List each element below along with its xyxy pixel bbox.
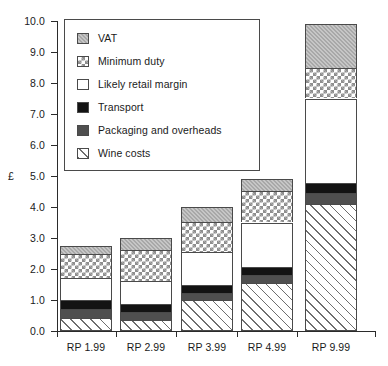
x-tick <box>176 331 177 337</box>
y-tick <box>51 21 57 22</box>
bar-segment-transport <box>241 267 293 275</box>
x-tick <box>57 331 58 337</box>
y-tick-label: 0.0 <box>30 326 45 336</box>
bar-segment-wine-costs <box>241 283 293 331</box>
y-tick <box>51 114 57 115</box>
bar-segment-wine-costs <box>181 300 233 331</box>
legend-item: Minimum duty <box>77 50 259 73</box>
legend-item: Wine costs <box>77 142 259 165</box>
bar-segment-transport <box>181 285 233 293</box>
y-tick-label: 2.0 <box>30 264 45 274</box>
bar-segment-wine-costs <box>60 318 112 331</box>
y-tick <box>51 83 57 84</box>
bar-segment-transport <box>305 183 357 193</box>
legend-item: Packaging and overheads <box>77 119 259 142</box>
y-axis-line <box>57 21 58 332</box>
legend-label: Wine costs <box>98 148 150 159</box>
legend-swatch <box>77 79 89 90</box>
bar-segment-likely-retail-margin <box>181 252 233 285</box>
legend-swatch <box>77 33 89 44</box>
bar-rp-1-99 <box>60 269 112 331</box>
bar-rp-4-99 <box>241 179 293 331</box>
bar-segment-transport <box>60 300 112 309</box>
y-axis-title: £ <box>8 171 14 181</box>
bar-segment-vat <box>120 238 172 250</box>
legend-item: Transport <box>77 96 259 119</box>
bar-rp-9-99 <box>305 24 357 331</box>
bar-segment-minimum-duty <box>60 254 112 278</box>
y-tick <box>51 300 57 301</box>
chart-legend: VATMinimum dutyLikely retail marginTrans… <box>64 19 260 171</box>
y-tick <box>51 269 57 270</box>
bar-segment-likely-retail-margin <box>305 99 357 184</box>
bar-segment-vat <box>181 207 233 222</box>
bar-segment-minimum-duty <box>181 222 233 251</box>
y-tick <box>51 238 57 239</box>
bar-rp-2-99 <box>120 238 172 331</box>
y-tick-label: 10.0 <box>24 16 45 26</box>
y-tick-label: 6.0 <box>30 140 45 150</box>
legend-item: Likely retail margin <box>77 73 259 96</box>
legend-swatch <box>77 102 89 113</box>
bar-segment-packaging-and-overheads <box>305 193 357 204</box>
y-tick <box>51 176 57 177</box>
bar-segment-packaging-and-overheads <box>181 293 233 300</box>
y-tick-label: 9.0 <box>30 47 45 57</box>
bar-segment-likely-retail-margin <box>60 278 112 300</box>
legend-label: Packaging and overheads <box>98 125 222 136</box>
bar-segment-minimum-duty <box>305 68 357 98</box>
bar-segment-vat <box>241 179 293 191</box>
legend-label: Transport <box>98 102 143 113</box>
x-axis-line <box>57 331 375 332</box>
y-tick-label: 7.0 <box>30 109 45 119</box>
legend-swatch <box>77 148 89 159</box>
bar-segment-packaging-and-overheads <box>120 312 172 320</box>
y-tick-label: 5.0 <box>30 171 45 181</box>
bar-segment-vat <box>305 24 357 68</box>
x-tick <box>375 331 376 337</box>
legend-swatch <box>77 125 89 136</box>
bar-segment-packaging-and-overheads <box>241 275 293 283</box>
bar-rp-3-99 <box>181 207 233 331</box>
stacked-bar-chart: 0.01.02.03.04.05.06.07.08.09.010.0 RP 1.… <box>0 0 388 366</box>
bar-segment-likely-retail-margin <box>241 223 293 268</box>
y-tick-label: 3.0 <box>30 233 45 243</box>
x-tick-label: RP 9.99 <box>291 342 371 353</box>
bar-segment-wine-costs <box>305 204 357 331</box>
y-tick-label: 4.0 <box>30 202 45 212</box>
bar-segment-packaging-and-overheads <box>60 309 112 318</box>
bar-segment-minimum-duty <box>241 191 293 222</box>
legend-item: VAT <box>77 27 259 50</box>
legend-label: Likely retail margin <box>98 79 188 90</box>
y-tick-label: 8.0 <box>30 78 45 88</box>
x-tick <box>297 331 298 337</box>
legend-swatch <box>77 56 89 67</box>
legend-label: VAT <box>98 33 117 44</box>
bar-segment-transport <box>120 304 172 312</box>
legend-label: Minimum duty <box>98 56 165 67</box>
bar-segment-wine-costs <box>120 320 172 331</box>
bar-segment-minimum-duty <box>120 250 172 281</box>
x-tick <box>237 331 238 337</box>
y-tick <box>51 52 57 53</box>
bar-segment-likely-retail-margin <box>120 281 172 304</box>
bar-segment-vat <box>60 246 112 254</box>
y-tick <box>51 145 57 146</box>
y-tick-label: 1.0 <box>30 295 45 305</box>
y-tick <box>51 207 57 208</box>
x-tick <box>116 331 117 337</box>
